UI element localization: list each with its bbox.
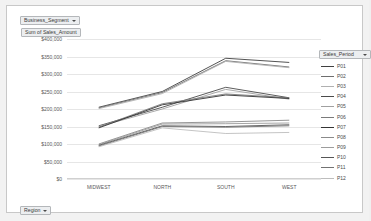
legend-swatch-icon — [321, 157, 334, 158]
legend-swatch-icon — [321, 76, 334, 77]
legend-swatch-icon — [321, 147, 334, 148]
legend-item-label: P05 — [337, 104, 346, 109]
legend-swatch-icon — [321, 178, 334, 179]
legend-item-label: P06 — [337, 115, 346, 120]
legend-item[interactable]: P02 — [319, 71, 371, 81]
business-segment-filter-label: Business_Segment — [24, 18, 69, 23]
y-axis-tick-label: $300,000 — [41, 72, 62, 77]
legend-item[interactable]: P07 — [319, 122, 371, 132]
legend-item-label: P08 — [337, 135, 346, 140]
plot-canvas — [67, 39, 321, 179]
business-segment-filter-button[interactable]: Business_Segment — [20, 16, 80, 25]
x-axis-tick-label: SOUTH — [194, 181, 258, 195]
gridline — [67, 179, 321, 180]
plot-area: $0$50,000$100,000$150,000$200,000$250,00… — [21, 39, 321, 194]
region-filter-label: Region — [24, 208, 40, 213]
legend: Sales_Period P01P02P03P04P05P06P07P08P09… — [319, 50, 371, 183]
y-axis-tick-label: $150,000 — [41, 124, 62, 129]
value-field-label: Sum of Sales_Amount — [25, 30, 77, 35]
legend-title: Sales_Period — [323, 52, 354, 57]
legend-item-label: P09 — [337, 145, 346, 150]
legend-item-label: P11 — [337, 165, 346, 170]
y-axis-tick-label: $50,000 — [44, 159, 62, 164]
legend-swatch-icon — [321, 96, 334, 97]
series-line-p03 — [99, 61, 290, 108]
y-axis-tick-label: $250,000 — [41, 89, 62, 94]
legend-item-label: P04 — [337, 94, 346, 99]
x-axis-tick-label: MIDWEST — [67, 181, 131, 195]
chevron-down-icon — [72, 20, 76, 22]
legend-item-list: P01P02P03P04P05P06P07P08P09P10P11P12 — [319, 61, 371, 183]
series-line-p02 — [99, 61, 290, 108]
legend-swatch-icon — [321, 167, 334, 168]
legend-swatch-icon — [321, 127, 334, 128]
legend-item-label: P02 — [337, 74, 346, 79]
legend-item[interactable]: P04 — [319, 92, 371, 102]
legend-item[interactable]: P01 — [319, 61, 371, 71]
legend-header-button[interactable]: Sales_Period — [319, 50, 371, 59]
legend-item-label: P07 — [337, 125, 346, 130]
region-filter-button[interactable]: Region — [20, 206, 51, 215]
legend-swatch-icon — [321, 137, 334, 138]
x-axis-tick-label: WEST — [258, 181, 322, 195]
legend-item-label: P03 — [337, 84, 346, 89]
legend-item-label: P10 — [337, 155, 346, 160]
legend-item-label: P12 — [337, 176, 346, 181]
y-axis-tick-label: $200,000 — [41, 107, 62, 112]
series-line-p04 — [99, 87, 290, 126]
legend-item[interactable]: P09 — [319, 143, 371, 153]
legend-item[interactable]: P11 — [319, 163, 371, 173]
chart-frame: Business_Segment Sum of Sales_Amount $0$… — [6, 5, 363, 213]
legend-item-label: P01 — [337, 64, 346, 69]
chevron-down-icon — [43, 210, 47, 212]
legend-swatch-icon — [321, 106, 334, 107]
legend-item[interactable]: P10 — [319, 153, 371, 163]
legend-item[interactable]: P03 — [319, 81, 371, 91]
legend-item[interactable]: P12 — [319, 173, 371, 183]
y-axis-labels: $0$50,000$100,000$150,000$200,000$250,00… — [21, 39, 65, 194]
y-axis-tick-label: $100,000 — [41, 142, 62, 147]
legend-swatch-icon — [321, 66, 334, 67]
series-line-p11 — [99, 126, 290, 146]
x-axis-labels: MIDWESTNORTHSOUTHWEST — [67, 181, 321, 195]
y-axis-tick-label: $350,000 — [41, 54, 62, 59]
legend-item[interactable]: P05 — [319, 102, 371, 112]
legend-item[interactable]: P08 — [319, 132, 371, 142]
legend-swatch-icon — [321, 117, 334, 118]
series-lines — [67, 39, 321, 179]
y-axis-tick-label: $0 — [56, 177, 62, 182]
y-axis-tick-label: $400,000 — [41, 37, 62, 42]
x-axis-tick-label: NORTH — [131, 181, 195, 195]
chevron-down-icon — [363, 54, 367, 56]
legend-item[interactable]: P06 — [319, 112, 371, 122]
legend-swatch-icon — [321, 86, 334, 87]
